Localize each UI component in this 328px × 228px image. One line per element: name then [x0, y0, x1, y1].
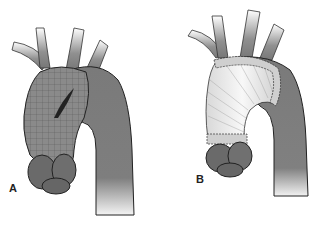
- aorta-graft-illustration: [164, 0, 328, 228]
- panel-label-b: B: [196, 173, 204, 185]
- panel-b: B: [164, 0, 328, 228]
- panel-a: A: [0, 0, 164, 228]
- panel-label-a: A: [9, 182, 17, 194]
- aorta-aneurysm-illustration: [0, 0, 164, 228]
